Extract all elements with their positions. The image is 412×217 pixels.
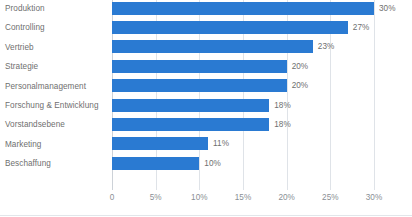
category-label: Vorstandsebene (5, 120, 106, 129)
bar (112, 79, 287, 92)
category-label: Controlling (5, 23, 106, 32)
bar-value-label: 18% (274, 119, 291, 130)
bar (112, 99, 269, 112)
x-tick-label: 20% (278, 193, 295, 203)
bar-chart: ProduktionControllingVertriebStrategiePe… (0, 0, 412, 217)
bar-row: 20% (106, 79, 392, 92)
bar (112, 137, 208, 150)
bar-row: 11% (106, 137, 392, 150)
category-label: Produktion (5, 4, 106, 13)
category-label: Forschung & Entwicklung (5, 101, 106, 110)
bar-row: 23% (106, 40, 392, 53)
x-tick-label: 15% (235, 193, 252, 203)
bar-value-label: 11% (213, 138, 229, 149)
bar (112, 60, 287, 73)
bar-value-label: 20% (292, 61, 309, 72)
plot-area: 30%27%23%20%20%18%18%11%10% (106, 0, 392, 190)
bottom-divider (0, 215, 412, 216)
bar (112, 118, 269, 131)
bar-value-label: 10% (204, 158, 221, 169)
bar-row: 27% (106, 21, 392, 34)
bar-value-label: 23% (318, 41, 335, 52)
bar-value-label: 20% (292, 80, 309, 91)
bar (112, 21, 348, 34)
bar-row: 20% (106, 60, 392, 73)
bar-value-label: 18% (274, 100, 291, 111)
bar (112, 2, 374, 15)
category-label: Vertrieb (5, 43, 106, 52)
category-label: Strategie (5, 62, 106, 71)
x-tick-label: 10% (191, 193, 208, 203)
category-label: Beschaffung (5, 159, 106, 168)
bar (112, 40, 313, 53)
bar-value-label: 27% (353, 22, 370, 33)
bar-value-label: 30% (379, 3, 396, 14)
category-label-column: ProduktionControllingVertriebStrategiePe… (0, 0, 106, 190)
category-label: Marketing (5, 140, 106, 149)
bar-row: 30% (106, 2, 392, 15)
x-tick-label: 5% (150, 193, 162, 203)
bar (112, 157, 199, 170)
x-axis: 05%10%15%20%25%30% (106, 190, 392, 210)
x-tick-label: 25% (322, 193, 339, 203)
x-tick-label: 0 (110, 193, 115, 203)
bar-row: 10% (106, 157, 392, 170)
x-tick-label: 30% (366, 193, 383, 203)
bar-row: 18% (106, 118, 392, 131)
category-label: Personalmanagement (5, 82, 106, 91)
bar-row: 18% (106, 99, 392, 112)
